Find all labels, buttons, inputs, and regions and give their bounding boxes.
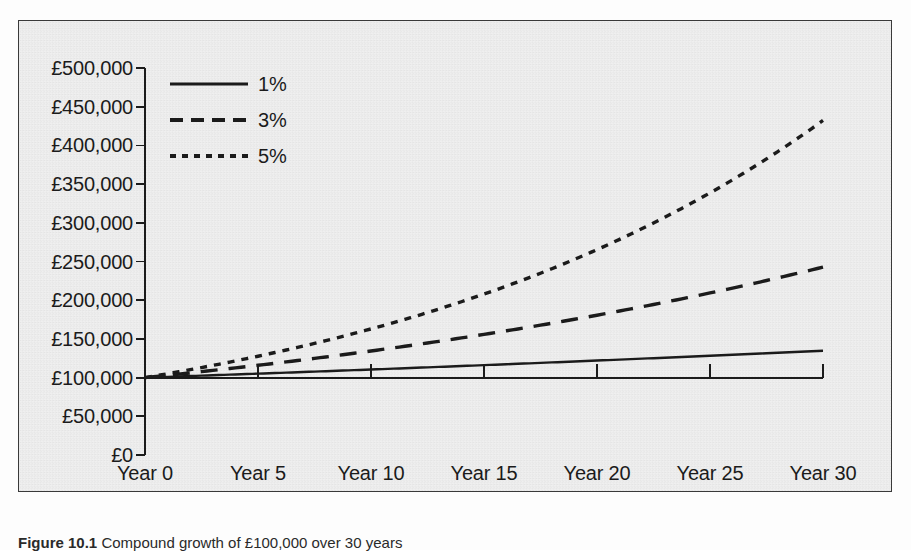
x-tick-label: Year 10 (338, 462, 405, 485)
legend-line-swatch (170, 113, 248, 127)
x-tick-label: Year 20 (564, 462, 631, 485)
legend-swatch-graphic (170, 113, 248, 127)
x-tick-label: Year 30 (790, 462, 857, 485)
legend-swatch-graphic (170, 149, 248, 163)
legend-swatch-graphic (170, 77, 248, 91)
x-tick-label: Year 25 (677, 462, 744, 485)
figure-caption: Figure 10.1 Compound growth of £100,000 … (18, 534, 898, 551)
legend-item-label: 1% (258, 73, 287, 96)
figure-caption-prefix: Figure 10.1 (18, 534, 97, 551)
legend-line-swatch (170, 149, 248, 163)
legend-item[interactable]: 1% (170, 66, 330, 102)
x-tick-label: Year 5 (230, 462, 286, 485)
legend-item[interactable]: 3% (170, 102, 330, 138)
figure-caption-text: Compound growth of £100,000 over 30 year… (101, 534, 402, 551)
series-line-3pct (145, 267, 823, 377)
x-tick-label: Year 0 (117, 462, 173, 485)
x-axis-labels: Year 0Year 5Year 10Year 15Year 20Year 25… (0, 462, 911, 492)
legend-item-label: 5% (258, 145, 287, 168)
legend-item-label: 3% (258, 109, 287, 132)
legend-item[interactable]: 5% (170, 138, 330, 174)
chart-legend: 1%3%5% (170, 66, 330, 174)
legend-line-swatch (170, 77, 248, 91)
x-tick-label: Year 15 (451, 462, 518, 485)
